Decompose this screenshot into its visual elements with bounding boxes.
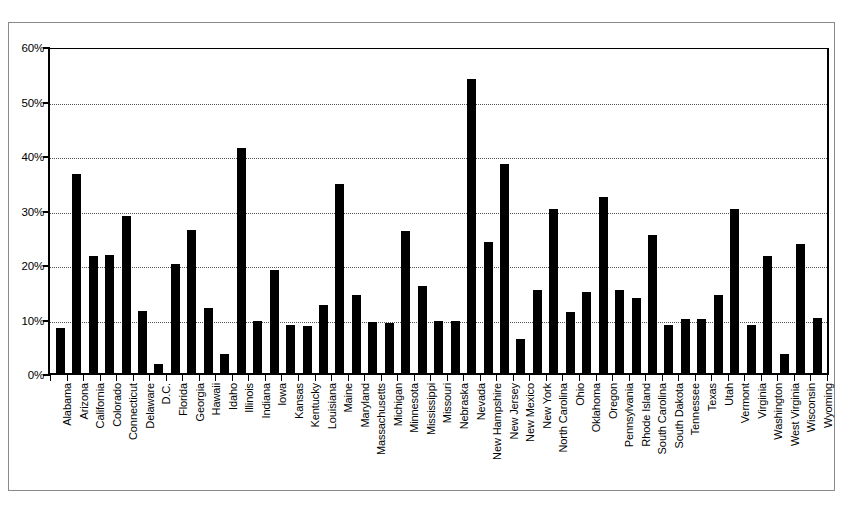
x-axis-tick-mark — [248, 375, 249, 381]
bar — [187, 230, 196, 373]
x-axis-tick-mark — [810, 375, 811, 381]
x-axis-tick-mark — [513, 375, 514, 381]
bar — [335, 184, 344, 373]
x-axis-tick-slot — [315, 375, 332, 381]
x-axis-tick-slot — [761, 375, 778, 381]
y-axis-tick-label: 30% — [4, 206, 44, 218]
x-axis-tick-mark — [596, 375, 597, 381]
x-axis-label-slot: Oregon — [596, 383, 613, 488]
x-axis-label-slot: Idaho — [215, 383, 232, 488]
bar-slot — [562, 49, 578, 373]
x-axis-label-slot: Texas — [695, 383, 712, 488]
x-axis-tick-slot — [116, 375, 133, 381]
x-axis-tick-mark — [133, 375, 134, 381]
bar-slot — [233, 49, 249, 373]
bar — [549, 209, 558, 373]
x-axis-label-slot: California — [83, 383, 100, 488]
bar — [451, 321, 460, 373]
bar-slot — [727, 49, 743, 373]
bar-slot — [282, 49, 298, 373]
x-axis-tick-mark — [711, 375, 712, 381]
bar-slot — [546, 49, 562, 373]
plot-area — [48, 48, 829, 375]
x-axis-tick-slot — [645, 375, 662, 381]
x-axis-tick-slot — [232, 375, 249, 381]
x-axis-label-slot: Tennessee — [678, 383, 695, 488]
x-axis-label-slot: New Hampshire — [480, 383, 497, 488]
bar — [72, 174, 81, 373]
x-axis-tick-slot — [414, 375, 431, 381]
x-axis-label-slot: Louisiana — [315, 383, 332, 488]
x-axis-tick-mark — [298, 375, 299, 381]
x-axis-label-slot: South Dakota — [662, 383, 679, 488]
y-axis-tick-label: 0% — [4, 369, 44, 381]
bar-slot — [759, 49, 775, 373]
x-axis-label-slot: Kansas — [281, 383, 298, 488]
x-axis-tick-slot — [447, 375, 464, 381]
x-axis-tick-slot — [265, 375, 282, 381]
x-axis-tick-slot — [133, 375, 150, 381]
bar — [352, 295, 361, 373]
bar — [401, 231, 410, 373]
bar-slot — [348, 49, 364, 373]
x-axis-label-slot: Vermont — [728, 383, 745, 488]
x-axis-tick-slot — [83, 375, 100, 381]
x-axis-tick-slot — [629, 375, 646, 381]
bar — [566, 312, 575, 373]
bar-slot — [579, 49, 595, 373]
bar-slot — [480, 49, 496, 373]
x-axis-label-slot: Mississippi — [414, 383, 431, 488]
x-axis-tick-mark — [182, 375, 183, 381]
x-axis-tick-slot — [67, 375, 84, 381]
x-axis-tick-mark — [612, 375, 613, 381]
x-axis-label-slot: Maryland — [348, 383, 365, 488]
bar-slot — [430, 49, 446, 373]
x-axis-tick-slot — [100, 375, 117, 381]
x-axis-tick-mark — [562, 375, 563, 381]
bar-slot — [776, 49, 792, 373]
x-axis-tick-slot — [430, 375, 447, 381]
y-axis-labels: 0%10%20%30%40%50%60% — [0, 48, 44, 375]
x-axis-tick-mark — [645, 375, 646, 381]
bar-slot — [513, 49, 529, 373]
bar — [385, 323, 394, 373]
x-axis-tick-mark — [265, 375, 266, 381]
x-axis-tick-mark — [100, 375, 101, 381]
bar — [154, 364, 163, 373]
x-axis-tick-slot — [546, 375, 563, 381]
x-axis-tick-mark — [348, 375, 349, 381]
bar — [253, 321, 262, 373]
bar-slot — [677, 49, 693, 373]
bar — [56, 328, 65, 373]
x-axis-tick-mark — [695, 375, 696, 381]
x-axis-label-slot: Missouri — [430, 383, 447, 488]
x-axis-tick-slot — [744, 375, 761, 381]
bar-slot — [694, 49, 710, 373]
x-axis-tick-slot — [463, 375, 480, 381]
x-axis-tick-mark — [281, 375, 282, 381]
bar-slot — [266, 49, 282, 373]
bar — [270, 270, 279, 373]
x-axis-tick-slot — [777, 375, 794, 381]
x-axis-tick-mark — [629, 375, 630, 381]
x-axis-tick-slot — [513, 375, 530, 381]
x-axis-tick-mark — [777, 375, 778, 381]
x-axis-tick-slot — [331, 375, 348, 381]
bar — [681, 319, 690, 373]
bar-slot — [661, 49, 677, 373]
bar — [664, 325, 673, 374]
x-axis-label-slot: North Carolina — [546, 383, 563, 488]
bar — [89, 256, 98, 373]
bar — [434, 321, 443, 373]
x-axis-tick-slot — [182, 375, 199, 381]
x-axis-label-slot: Nebraska — [447, 383, 464, 488]
y-axis-tick-label: 50% — [4, 97, 44, 109]
x-axis-tick-slot — [397, 375, 414, 381]
y-axis-tick-label: 10% — [4, 315, 44, 327]
bar-slot — [496, 49, 512, 373]
x-axis-tick-slot — [810, 375, 827, 381]
x-axis-label-slot: Florida — [166, 383, 183, 488]
bar-slot — [200, 49, 216, 373]
x-axis-tick-mark — [116, 375, 117, 381]
bar-slot — [398, 49, 414, 373]
